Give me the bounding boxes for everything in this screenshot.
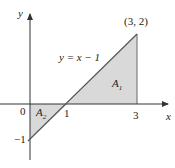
tick-label-neg1: −1: [14, 133, 26, 145]
x-axis-label: x: [165, 110, 171, 122]
y-axis-label: y: [17, 7, 23, 19]
point-label: (3, 2): [124, 15, 148, 28]
tick-label-3: 3: [133, 109, 139, 121]
line-equation-label: y = x − 1: [58, 51, 100, 63]
graph-canvas: y x 0 1 3 −1 (3, 2) y = x − 1 A1 A2: [0, 0, 175, 168]
tick-label-1: 1: [64, 107, 70, 119]
origin-label: 0: [20, 105, 26, 117]
